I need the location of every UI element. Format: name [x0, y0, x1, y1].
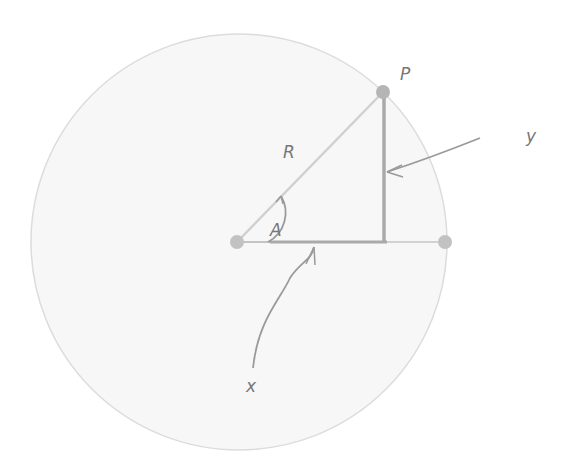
unit-circle-diagram: P R A y x	[0, 0, 575, 468]
label-a: A	[269, 220, 282, 240]
label-r: R	[283, 142, 295, 162]
label-x: x	[245, 376, 257, 396]
right-point	[438, 235, 452, 249]
point-p	[376, 85, 390, 99]
center-point	[230, 235, 244, 249]
label-p: P	[400, 64, 411, 84]
label-y: y	[525, 126, 537, 146]
